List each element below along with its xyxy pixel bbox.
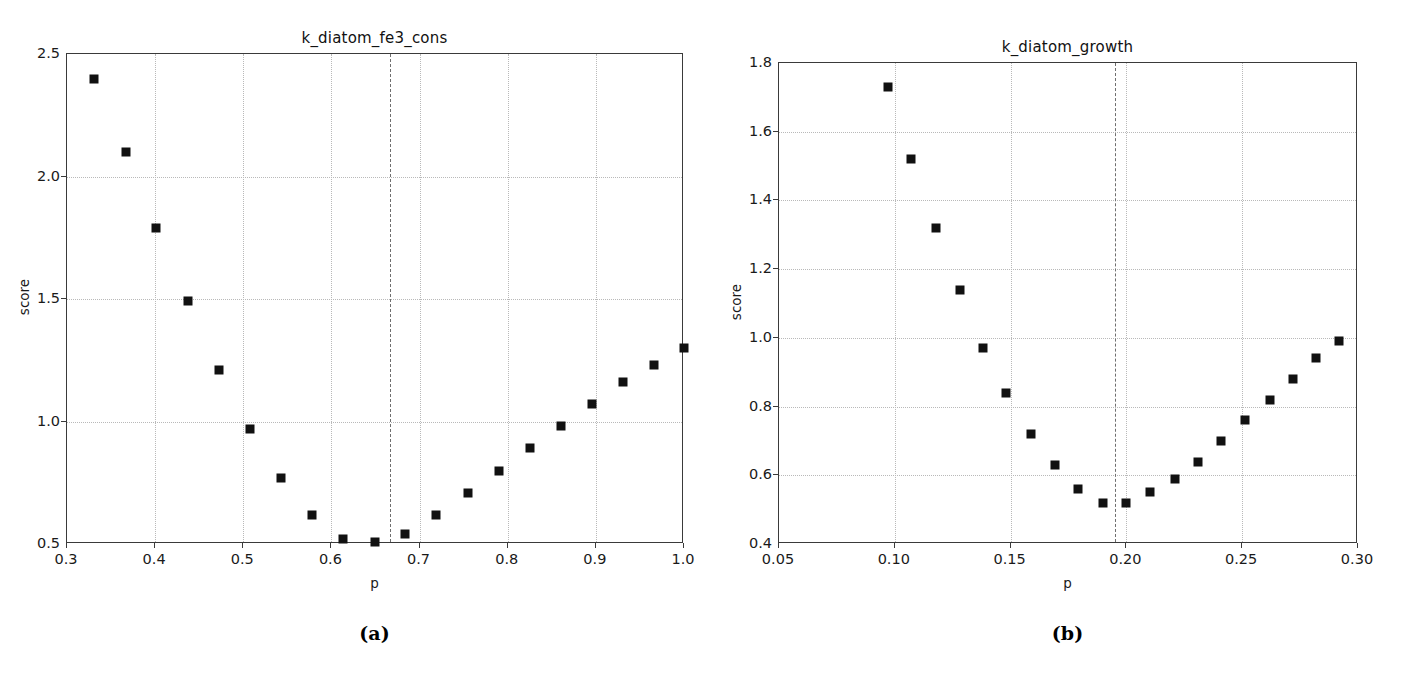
y-tick-label: 1.8 (732, 54, 772, 70)
data-point (1265, 395, 1274, 404)
x-tick (330, 543, 331, 548)
data-point (907, 155, 916, 164)
data-point (122, 148, 131, 157)
data-point (1027, 430, 1036, 439)
data-point (955, 285, 964, 294)
x-tick-label: 0.3 (54, 551, 77, 567)
x-tick-label: 0.4 (143, 551, 166, 567)
x-tick-label: 1.0 (671, 551, 694, 567)
data-point (1240, 416, 1249, 425)
data-point (464, 488, 473, 497)
data-point (338, 535, 347, 544)
data-point (619, 378, 628, 387)
data-point (556, 422, 565, 431)
gridline-vertical (895, 63, 896, 542)
data-point (650, 361, 659, 370)
gridline-vertical (596, 54, 597, 542)
data-point (1122, 498, 1131, 507)
gridline-horizontal (779, 269, 1356, 270)
data-point (932, 223, 941, 232)
gridlines-b (779, 63, 1356, 542)
y-tick-label: 2.0 (20, 168, 60, 184)
gridline-vertical (243, 54, 244, 542)
yaxis-title-b: score (728, 252, 744, 352)
gridline-horizontal (67, 177, 682, 178)
yaxis-title-a: score (16, 247, 32, 347)
data-point (1073, 485, 1082, 494)
x-tick-label: 0.20 (1109, 551, 1141, 567)
gridline-vertical (420, 54, 421, 542)
panel-b: k_diatom_growth 0.050.100.150.200.250.30… (706, 0, 1413, 686)
data-point (1194, 457, 1203, 466)
data-point (1335, 337, 1344, 346)
xaxis-title-a: p (66, 575, 683, 591)
data-point (90, 74, 99, 83)
gridline-horizontal (779, 132, 1356, 133)
x-tick-label: 0.25 (1225, 551, 1257, 567)
x-tick (683, 543, 684, 548)
gridline-horizontal (779, 338, 1356, 339)
data-point (525, 444, 534, 453)
x-tick (419, 543, 420, 548)
data-point (308, 510, 317, 519)
data-point (1171, 474, 1180, 483)
panel-a: k_diatom_fe3_cons 0.30.40.50.60.70.80.91… (0, 0, 706, 686)
gridline-vertical (1242, 63, 1243, 542)
x-tick (242, 543, 243, 548)
x-tick (1241, 543, 1242, 548)
data-point (1050, 460, 1059, 469)
y-tick-label: 0.6 (732, 466, 772, 482)
y-tick-label: 1.6 (732, 123, 772, 139)
data-point (432, 510, 441, 519)
x-tick-label: 0.8 (495, 551, 518, 567)
x-tick (507, 543, 508, 548)
subfigure-caption-b: (b) (778, 622, 1357, 644)
data-point (152, 223, 161, 232)
axes-b (778, 62, 1357, 543)
data-point (978, 344, 987, 353)
axes-a (66, 53, 683, 543)
x-tick-label: 0.5 (231, 551, 254, 567)
data-point (1145, 488, 1154, 497)
data-point (1289, 375, 1298, 384)
x-tick (894, 543, 895, 548)
data-point (680, 344, 689, 353)
data-point (401, 530, 410, 539)
y-tick-label: 0.8 (732, 398, 772, 414)
gridline-vertical (1126, 63, 1127, 542)
data-point (883, 83, 892, 92)
gridline-vertical (1011, 63, 1012, 542)
datapoints-b (779, 63, 1356, 542)
x-tick (1125, 543, 1126, 548)
plot-title-b: k_diatom_growth (778, 38, 1357, 56)
gridline-horizontal (67, 422, 682, 423)
data-point (1312, 354, 1321, 363)
x-tick (66, 543, 67, 548)
gridline-vertical (508, 54, 509, 542)
gridline-horizontal (67, 299, 682, 300)
x-tick (1357, 543, 1358, 548)
plot-title-a: k_diatom_fe3_cons (66, 29, 683, 47)
x-tick-label: 0.05 (762, 551, 794, 567)
datapoints-a (67, 54, 682, 542)
x-tick-label: 0.10 (878, 551, 910, 567)
data-point (183, 297, 192, 306)
data-point (1099, 498, 1108, 507)
gridline-vertical (155, 54, 156, 542)
data-point (1217, 436, 1226, 445)
gridline-horizontal (779, 475, 1356, 476)
y-tick-label: 2.5 (20, 45, 60, 61)
y-tick-label: 0.5 (20, 535, 60, 551)
gridline-vertical (331, 54, 332, 542)
x-tick (154, 543, 155, 548)
data-point (246, 424, 255, 433)
x-tick (1010, 543, 1011, 548)
figure-scatter-pair: k_diatom_fe3_cons 0.30.40.50.60.70.80.91… (0, 0, 1413, 686)
y-tick-label: 0.4 (732, 535, 772, 551)
y-tick-label: 1.0 (20, 413, 60, 429)
x-tick-label: 0.30 (1341, 551, 1373, 567)
x-tick (778, 543, 779, 548)
gridlines-a (67, 54, 682, 542)
x-tick-label: 0.15 (993, 551, 1025, 567)
data-point (494, 466, 503, 475)
